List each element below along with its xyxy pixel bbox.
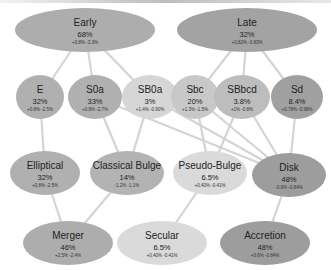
node-error-range: +0.8% -2.7% <box>82 107 108 112</box>
node-percentage: 48% <box>275 176 302 184</box>
node-error-range: +0.6% -0.84% <box>244 253 286 258</box>
node-error-range: +0.78% -0.98% <box>282 107 313 112</box>
node-label-classical-bulge: Classical Bulge14%-1.2% -1.1% <box>93 161 161 188</box>
node-label-elliptical: Elliptical32%+0.8% -2.5% <box>27 161 64 188</box>
node-label-disk: Disk48%-0.6% -0.84% <box>275 163 302 190</box>
node-label-sbc: Sbc20%+1.3% -1.5% <box>182 85 208 112</box>
node-label-accretion: Accretion48%+0.6% -0.84% <box>244 231 286 258</box>
node-label-sbbcd: SBbcd3.8%+1% -0.8% <box>227 85 256 112</box>
node-error-range: +0.8% -2.5% <box>27 183 64 188</box>
node-error-range: +1.4% -0.90% <box>136 107 164 112</box>
node-title: SB0a <box>136 85 164 95</box>
node-error-range: +2.5% -2.4% <box>52 253 84 258</box>
node-label-early: Early68%+0.8% -3.3% <box>72 18 98 45</box>
node-title: Classical Bulge <box>93 161 161 171</box>
node-error-range: +0.40% -0.41% <box>179 183 242 188</box>
node-title: Secular <box>145 231 179 241</box>
node-percentage: 14% <box>93 174 161 182</box>
node-title: Elliptical <box>27 161 64 171</box>
node-percentage: 3.8% <box>227 98 256 106</box>
node-title: E <box>27 85 53 95</box>
node-title: Accretion <box>244 231 286 241</box>
node-title: S0a <box>82 85 108 95</box>
nodes <box>10 8 326 265</box>
node-label-s0a: S0a33%+0.8% -2.7% <box>82 85 108 112</box>
node-percentage: 32% <box>27 174 64 182</box>
node-percentage: 6.5% <box>179 174 242 182</box>
node-percentage: 32% <box>232 31 263 39</box>
node-error-range: -1.2% -1.1% <box>93 183 161 188</box>
node-error-range: -0.6% -0.84% <box>275 185 302 190</box>
node-label-e: E32%+0.8% -2.5% <box>27 85 53 112</box>
node-percentage: 6.5% <box>145 244 179 252</box>
node-label-sb0a: SB0a3%+1.4% -0.90% <box>136 85 164 112</box>
node-error-range: +0.40% -0.41% <box>145 253 179 258</box>
node-percentage: 20% <box>182 98 208 106</box>
node-title: Sd <box>282 85 313 95</box>
node-percentage: 48% <box>244 244 286 252</box>
node-error-range: +1% -0.8% <box>227 107 256 112</box>
node-label-pseudo-bulge: Pseudo-Bulge6.5%+0.40% -0.41% <box>179 161 242 188</box>
node-title: Disk <box>275 163 302 173</box>
node-error-range: +0.8% -3.3% <box>72 40 98 45</box>
node-percentage: 3% <box>136 98 164 106</box>
node-title: Sbc <box>182 85 208 95</box>
node-title: SBbcd <box>227 85 256 95</box>
node-error-range: +1.3% -1.5% <box>182 107 208 112</box>
node-label-late: Late32%+0.82% -0.83% <box>232 18 263 45</box>
node-percentage: 33% <box>82 98 108 106</box>
node-label-sd: Sd8.4%+0.78% -0.98% <box>282 85 313 112</box>
node-error-range: +0.8% -2.5% <box>27 107 53 112</box>
node-title: Early <box>72 18 98 28</box>
node-title: Late <box>232 18 263 28</box>
node-error-range: +0.82% -0.83% <box>232 40 263 45</box>
edges <box>40 30 297 243</box>
node-title: Merger <box>52 231 84 241</box>
node-percentage: 8.4% <box>282 98 313 106</box>
node-label-merger: Merger46%+2.5% -2.4% <box>52 231 84 258</box>
node-percentage: 46% <box>52 244 84 252</box>
node-label-secular: Secular6.5%+0.40% -0.41% <box>145 231 179 258</box>
node-title: Pseudo-Bulge <box>179 161 242 171</box>
node-percentage: 32% <box>27 98 53 106</box>
node-percentage: 68% <box>72 31 98 39</box>
